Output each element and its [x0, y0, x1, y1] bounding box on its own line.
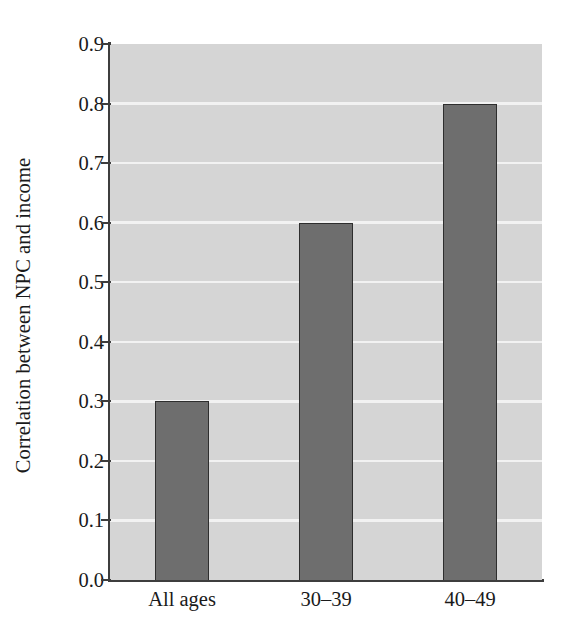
bar	[443, 104, 498, 580]
y-axis-tick-label: 0.7	[46, 153, 104, 174]
bar	[155, 401, 210, 580]
y-axis-tick-label: 0.2	[46, 451, 104, 472]
y-axis-title: Correlation between NPC and income	[0, 0, 46, 631]
y-axis-tick-label: 0.6	[46, 212, 104, 233]
x-axis-tick-label: 30–39	[300, 588, 351, 611]
y-axis-tick-label: 0.0	[46, 570, 104, 591]
y-axis-tick-mark	[101, 341, 111, 343]
y-axis-tick-mark	[101, 579, 111, 581]
y-axis-tick-mark	[101, 222, 111, 224]
y-axis-tick-mark	[101, 519, 111, 521]
y-axis-tick-mark	[101, 162, 111, 164]
y-axis-tick-label: 0.1	[46, 510, 104, 531]
x-axis-tick-labels: All ages30–3940–49	[110, 588, 542, 628]
y-axis-tick-labels: 0.90.80.70.60.50.40.30.20.10.0	[46, 0, 104, 631]
y-axis-tick-label: 0.4	[46, 332, 104, 353]
y-axis-tick-mark	[101, 460, 111, 462]
y-axis-tick-mark	[101, 400, 111, 402]
y-axis-tick-label: 0.9	[46, 34, 104, 55]
y-axis-tick-mark	[101, 103, 111, 105]
y-axis-tick-mark	[101, 281, 111, 283]
y-axis-tick-label: 0.8	[46, 93, 104, 114]
y-axis-tick-mark	[101, 43, 111, 45]
x-axis-tick-label: All ages	[148, 588, 216, 611]
bar	[299, 223, 354, 580]
bar-chart-figure: Correlation between NPC and income 0.90.…	[0, 0, 564, 631]
plot-area	[110, 44, 542, 580]
x-axis-tick-label: 40–49	[444, 588, 495, 611]
y-axis-tick-label: 0.3	[46, 391, 104, 412]
y-axis-tick-label: 0.5	[46, 272, 104, 293]
